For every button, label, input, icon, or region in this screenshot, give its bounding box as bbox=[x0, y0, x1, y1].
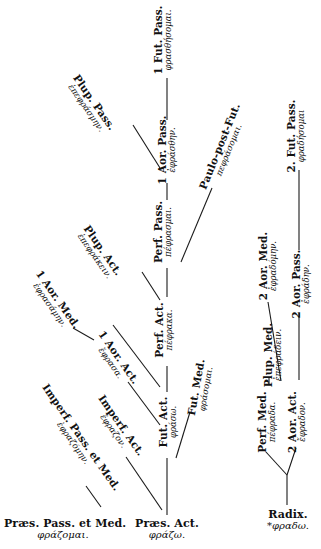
node-perf-pass: Perf. Pass. πέφρασμαι. bbox=[153, 201, 173, 263]
tense-label: Præs. Pass. et Med. bbox=[4, 518, 122, 530]
greek-form: φράσω. bbox=[169, 396, 178, 447]
greek-form: ἔφραδον. bbox=[298, 391, 307, 453]
node-plup-med: Plup. Med. ἐπεφράδειν. bbox=[263, 323, 283, 387]
greek-form: πέφρασμαι. bbox=[164, 201, 173, 263]
node-perf-act: Perf. Act. πέφρακα. bbox=[154, 302, 174, 357]
greek-form: *φραδω. bbox=[260, 521, 316, 532]
tense-label: Præs. Act. bbox=[130, 518, 204, 530]
node-fut-act: Fut. Act. φράσω. bbox=[158, 396, 178, 447]
node-praes-act: Præs. Act. φράζω. bbox=[130, 518, 204, 540]
greek-form: ἐφράδην. bbox=[302, 249, 311, 318]
greek-form: ἐφραδόμην. bbox=[269, 232, 278, 300]
node-perf-med: Perf. Med. πέφραδα. bbox=[257, 391, 277, 453]
greek-form: ἐπεφράδειν. bbox=[274, 323, 283, 387]
node-2-aor-act: 2 Aor. Act. ἔφραδον. bbox=[287, 391, 307, 453]
node-2-aor-pass: 2 Aor. Pass. ἐφράδην. bbox=[291, 249, 311, 318]
greek-form: πέφραδα. bbox=[268, 391, 277, 453]
node-radix: Radix. *φραδω. bbox=[260, 509, 316, 531]
tense-label: Radix. bbox=[260, 509, 316, 521]
node-2-fut-pass: 2. Fut. Pass. φραδήσομαι bbox=[286, 100, 306, 173]
greek-form: φράζω. bbox=[130, 530, 204, 541]
greek-form: φραδήσομαι bbox=[297, 100, 306, 173]
greek-form: ἐφράσθην. bbox=[168, 115, 177, 184]
node-2-aor-med: 2 Aor. Med. ἐφραδόμην. bbox=[258, 232, 278, 300]
node-1-aor-pass: 1 Aor. Pass. ἐφράσθην. bbox=[157, 115, 177, 184]
greek-form: φρασθήσομαι. bbox=[164, 5, 173, 74]
node-praes-pass-med: Præs. Pass. et Med. φράζομαι. bbox=[4, 518, 122, 540]
node-1-fut-pass: 1 Fut. Pass. φρασθήσομαι. bbox=[153, 5, 173, 74]
greek-form: πέφρακα. bbox=[165, 302, 174, 357]
greek-form: φράζομαι. bbox=[4, 530, 122, 541]
